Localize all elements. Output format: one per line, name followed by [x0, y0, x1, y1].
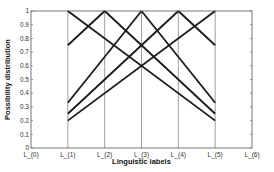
x-tick-label: L_(0) [23, 151, 38, 159]
y-tick-label: 0.3 [20, 103, 29, 110]
y-tick-label: 0.2 [20, 117, 29, 124]
possibility-distribution-chart: 00.10.20.30.40.50.60.70.80.91 L_(0)L_(1)… [0, 0, 274, 172]
y-tick-label: 0.6 [20, 62, 29, 69]
x-tick-label: L_(6) [244, 151, 259, 159]
series-line [68, 11, 178, 114]
y-axis-title: Possibility distribution [3, 39, 12, 120]
vertical-grid-lines [68, 11, 215, 148]
y-tick-label: 0.5 [20, 76, 29, 83]
y-tick-label: 0.4 [20, 89, 29, 96]
y-tick-label: 0.8 [20, 35, 29, 42]
y-tick-label: 1 [25, 7, 29, 14]
x-tick-label: L_(2) [97, 151, 112, 159]
x-tick-label: L_(5) [208, 151, 223, 159]
x-axis-title: Linguistic labels [112, 157, 171, 166]
series-line [105, 11, 216, 114]
y-tick-label: 0.9 [20, 21, 29, 28]
x-tick-label: L_(1) [60, 151, 75, 159]
y-tick-label: 0.7 [20, 48, 29, 55]
y-tick-label: 0.1 [20, 131, 29, 138]
x-tick-label: L_(4) [171, 151, 186, 159]
y-axis-ticks: 00.10.20.30.40.50.60.70.80.91 [20, 7, 252, 151]
